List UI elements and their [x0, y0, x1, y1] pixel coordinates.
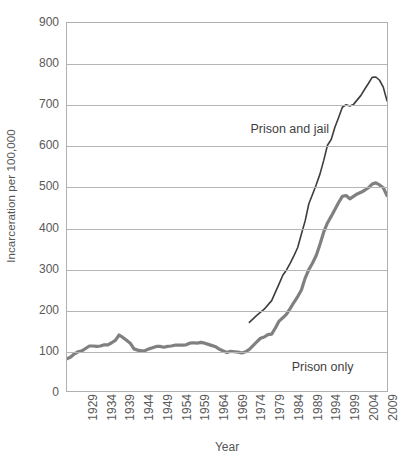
- incarceration-rate-line-chart: Incarceration per 100,000 01002003004005…: [0, 0, 401, 469]
- y-tick-label: 400: [39, 221, 59, 235]
- x-tick-label: 1994: [329, 394, 343, 421]
- series-canvas: [67, 23, 387, 391]
- gridline: [67, 64, 387, 65]
- x-tick-label: 1989: [311, 394, 325, 421]
- series-line-prison-and-jail: [249, 77, 387, 322]
- x-tick-label: 1949: [161, 394, 175, 421]
- series-annotation-prison-and-jail: Prison and jail: [250, 122, 329, 136]
- gridline: [67, 270, 387, 271]
- x-tick-label: 1979: [273, 394, 287, 421]
- x-tick-label: 1959: [198, 394, 212, 421]
- gridline: [67, 105, 387, 106]
- series-line-prison-only: [67, 183, 387, 359]
- x-axis-title: Year: [66, 440, 388, 454]
- x-tick-label: 2004: [367, 394, 381, 421]
- gridline: [67, 187, 387, 188]
- x-tick-label: 1939: [123, 394, 137, 421]
- gridline: [67, 352, 387, 353]
- y-tick-label: 100: [39, 344, 59, 358]
- plot-area: Prison and jailPrison only: [66, 22, 388, 392]
- y-axis-title-label: Incarceration per 100,000: [5, 129, 17, 263]
- x-tick-label: 1934: [105, 394, 119, 421]
- series-annotation-prison-only: Prison only: [292, 360, 354, 374]
- y-tick-label: 900: [39, 15, 59, 29]
- y-axis-title: Incarceration per 100,000: [0, 0, 22, 392]
- y-tick-label: 600: [39, 138, 59, 152]
- x-tick-label: 1944: [142, 394, 156, 421]
- y-tick-label: 200: [39, 303, 59, 317]
- x-tick-label: 2009: [386, 394, 400, 421]
- y-tick-label: 800: [39, 56, 59, 70]
- x-tick-label: 1964: [217, 394, 231, 421]
- gridline: [67, 229, 387, 230]
- x-tick-label: 1929: [86, 394, 100, 421]
- x-tick-label: 1954: [180, 394, 194, 421]
- x-tick-label: 1984: [292, 394, 306, 421]
- y-tick-label: 300: [39, 262, 59, 276]
- x-tick-label: 1969: [236, 394, 250, 421]
- y-tick-label: 0: [52, 385, 59, 399]
- y-tick-label: 500: [39, 179, 59, 193]
- y-axis-tick-labels: 0100200300400500600700800900: [22, 0, 64, 469]
- x-tick-label: 1999: [348, 394, 362, 421]
- gridline: [67, 146, 387, 147]
- gridline: [67, 311, 387, 312]
- x-axis-tick-labels: 1929193419391944194919541959196419691974…: [66, 392, 388, 442]
- y-tick-label: 700: [39, 97, 59, 111]
- x-tick-label: 1974: [254, 394, 268, 421]
